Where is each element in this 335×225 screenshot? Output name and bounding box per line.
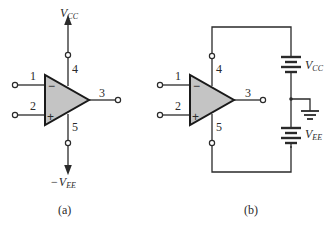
pin5-label: 5 xyxy=(72,120,78,134)
pin1-terminal xyxy=(12,82,17,87)
pin5-terminal xyxy=(65,140,70,145)
caption-b: (b) xyxy=(244,203,258,217)
pin2-label: 2 xyxy=(175,99,181,113)
neg-vee-label: −VEE xyxy=(51,175,76,190)
pin3-label: 3 xyxy=(99,86,105,100)
pin1-label: 1 xyxy=(30,69,36,83)
noninverting-sign: + xyxy=(192,110,199,124)
pin2-label: 2 xyxy=(30,99,36,113)
pin2-terminal xyxy=(157,112,162,117)
pin1-label: 1 xyxy=(175,69,181,83)
ground-wire xyxy=(291,99,310,111)
pin1-terminal xyxy=(157,82,162,87)
vee-label: VEE xyxy=(305,127,322,142)
ground-icon xyxy=(301,111,319,119)
pin3-label: 3 xyxy=(245,86,251,100)
panel-b: − + 1 2 3 4 5 VCC VEE (b) xyxy=(157,27,323,217)
pin3-terminal xyxy=(260,97,265,102)
inverting-sign: − xyxy=(193,79,200,93)
noninverting-sign: + xyxy=(47,110,54,124)
pin2-terminal xyxy=(12,112,17,117)
battery-vee xyxy=(281,128,301,143)
caption-a: (a) xyxy=(58,203,71,217)
pin5-terminal xyxy=(209,140,214,145)
top-supply-wire xyxy=(212,27,291,56)
pin4-label: 4 xyxy=(216,62,222,76)
pin4-label: 4 xyxy=(72,62,78,76)
pin5-label: 5 xyxy=(216,120,222,134)
pin3-terminal xyxy=(115,97,120,102)
panel-a: − + 1 2 3 4 5 VCC −VEE (a) xyxy=(12,6,120,217)
pin4-terminal xyxy=(65,52,70,57)
pin4-terminal xyxy=(209,53,214,58)
inverting-sign: − xyxy=(48,79,55,93)
vcc-label: VCC xyxy=(305,58,324,73)
vcc-label: VCC xyxy=(60,6,79,21)
bottom-supply-wire xyxy=(212,146,291,172)
op-amp-diagram: − + 1 2 3 4 5 VCC −VEE (a) xyxy=(0,0,335,225)
battery-vcc xyxy=(281,57,301,72)
